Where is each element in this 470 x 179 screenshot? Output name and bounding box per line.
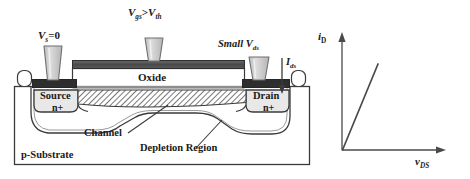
annotation-vds-subscript: ds: [253, 44, 259, 51]
annotation-ids-subscript: ds: [290, 62, 296, 69]
annotation-vds: Small Vds: [218, 39, 259, 52]
bulk-terminal-right: [292, 71, 306, 87]
iv-chart-axes: [338, 32, 446, 154]
annotation-vs-relation: =0: [48, 29, 60, 41]
label-source: Source: [40, 91, 71, 102]
source-contact-bar: [33, 80, 77, 88]
figure-root: Vs=0 Vgs>Vth Small Vds Ids Oxide Source …: [0, 0, 470, 179]
annotation-vds-symbol: V: [246, 38, 253, 49]
bulk-terminal-left: [18, 71, 32, 87]
label-p-substrate: p-Substrate: [21, 150, 74, 161]
chart-x-axis-label: vDS: [415, 156, 429, 170]
annotation-vs: Vs=0: [38, 30, 60, 44]
annotation-vds-prefix: Small: [218, 38, 246, 49]
chart-y-axis-arrowhead: [338, 32, 345, 42]
annotation-vth-subscript: th: [155, 13, 161, 21]
annotation-ids: Ids: [286, 57, 296, 70]
label-drain: Drain: [253, 91, 279, 102]
chart-x-axis-label-subscript: DS: [420, 162, 429, 170]
label-drain-doping: n+: [263, 103, 274, 113]
thin-gate-oxide-strip: [73, 86, 245, 89]
chart-y-axis-label: iD: [318, 31, 326, 45]
drain-electrode-probe: [249, 57, 269, 80]
channel-inversion-layer: [78, 90, 246, 107]
label-channel: Channel: [84, 128, 122, 139]
source-electrode-probe: [44, 46, 62, 80]
gate-metal-bar: [73, 61, 245, 69]
chart-x-axis-arrowhead: [436, 146, 446, 153]
gate-electrode-probe: [145, 38, 163, 61]
chart-linear-region-curve: [343, 64, 379, 150]
label-source-doping: n+: [52, 103, 63, 113]
label-depletion-region: Depletion Region: [140, 143, 217, 154]
annotation-vgs: Vgs>Vth: [128, 7, 161, 21]
label-oxide: Oxide: [138, 72, 166, 83]
chart-y-axis-label-subscript: D: [321, 37, 326, 45]
